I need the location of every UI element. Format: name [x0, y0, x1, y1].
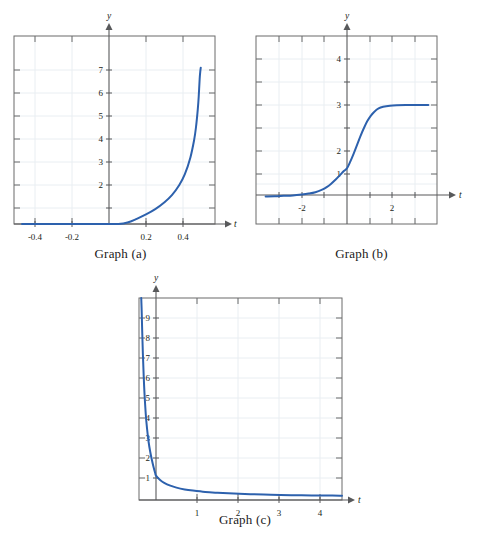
caption-c: Graph (c) [120, 512, 370, 528]
y-axis-name-b: y [344, 11, 350, 21]
y-tick-label: 4 [99, 134, 104, 144]
x-axis-arrow-a [225, 221, 232, 228]
caption-b: Graph (b) [241, 246, 482, 262]
curve-a [22, 68, 201, 224]
plot-c: 9 8 7 6 5 4 3 2 1 1 2 3 4 t y [120, 272, 370, 536]
y-axis-arrow-c [153, 285, 160, 292]
y-axis-name-c: y [153, 273, 159, 283]
x-tick-label: -0.2 [65, 232, 79, 242]
y-tick-label: 2 [146, 453, 151, 463]
x-axis-arrow-b [449, 192, 456, 199]
caption-a: Graph (a) [0, 246, 241, 262]
x-axis-name-c: t [358, 495, 361, 505]
y-tick-label: 2 [99, 180, 104, 190]
y-axis-name-a: y [106, 11, 112, 21]
graph-panel-b: 4 3 2 1 -2 2 t y Graph (b) [241, 0, 482, 268]
y-tick-label: 5 [146, 393, 151, 403]
plot-frame-a [14, 36, 215, 224]
graph-panel-a: 7 6 5 4 3 2 -0.4 -0.2 0.2 0.4 t y Graph … [0, 0, 241, 268]
x-tick-label: 0.4 [177, 232, 189, 242]
x-tick-label: 2 [390, 203, 395, 213]
y-tick-label: 7 [146, 353, 151, 363]
y-tick-label: 5 [99, 111, 104, 121]
y-tick-label: 3 [337, 100, 342, 110]
gridlines-c [139, 298, 342, 500]
y-tick-label: 1 [146, 473, 151, 483]
y-tick-label: 8 [146, 333, 151, 343]
y-tick-label: 4 [337, 54, 342, 64]
y-tick-label: 6 [99, 88, 104, 98]
x-axis-name-b: t [459, 190, 462, 200]
plot-a: 7 6 5 4 3 2 -0.4 -0.2 0.2 0.4 t y [0, 0, 241, 268]
y-axis-arrow-a [106, 23, 113, 30]
x-axis-name-a: t [234, 219, 237, 229]
plot-frame-c [139, 298, 342, 500]
graph-panel-c: 9 8 7 6 5 4 3 2 1 1 2 3 4 t y Graph (c) [120, 272, 370, 536]
frame-ticks-a [14, 36, 215, 224]
gridlines-a [14, 36, 215, 224]
frame-ticks-c [139, 298, 342, 500]
y-tick-label: 6 [146, 373, 151, 383]
y-tick-label: 9 [146, 313, 151, 323]
y-axis-arrow-b [344, 23, 351, 30]
x-axis-arrow-c [348, 497, 355, 504]
x-tick-label: 0.2 [140, 232, 151, 242]
x-tick-label: -2 [298, 203, 306, 213]
y-tick-label: 3 [99, 157, 104, 167]
x-tick-label: -0.4 [28, 232, 43, 242]
curve-c [141, 298, 342, 496]
plot-b: 4 3 2 1 -2 2 t y [241, 0, 482, 268]
y-tick-label: 2 [337, 146, 342, 156]
y-tick-label: 7 [99, 65, 104, 75]
